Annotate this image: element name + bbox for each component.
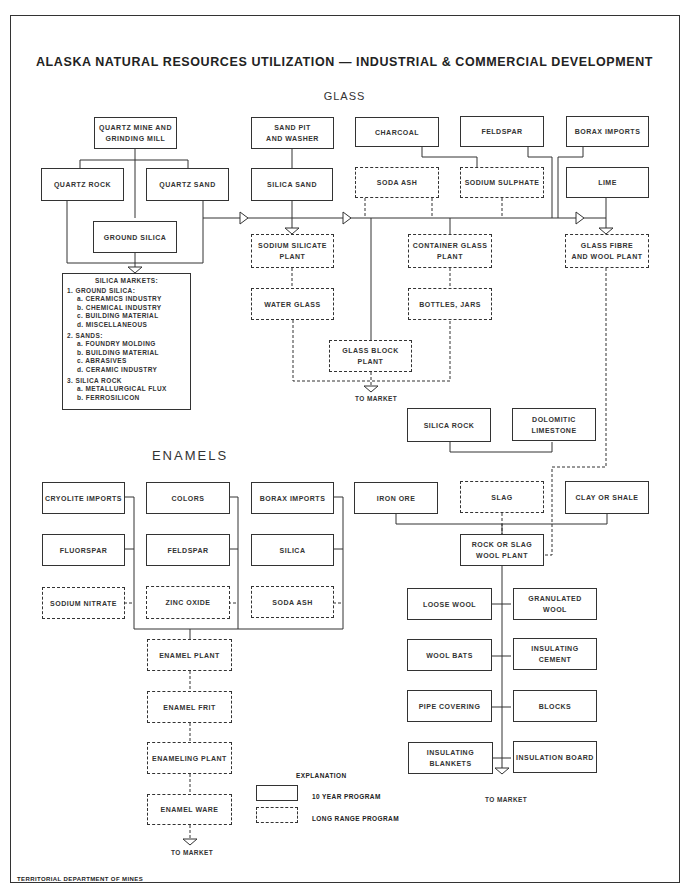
markets-group-1: 1. GROUND SILICA: a. CERAMICS INDUSTRY b… [67,286,186,329]
box-quartz-rock: QUARTZ ROCK [41,168,124,201]
to-market-wool: TO MARKET [485,796,527,803]
box-lime: LIME [566,167,649,198]
box-colors: COLORS [146,482,230,514]
box-soda-ash-enamels: SODA ASH [251,586,334,618]
to-market-enamels: TO MARKET [171,849,213,856]
box-wool-bats: WOOL BATS [407,639,492,671]
box-feldspar: FELDSPAR [460,116,544,147]
box-enamel-plant: ENAMEL PLANT [147,639,232,671]
legend-dashed-label: LONG RANGE PROGRAM [312,815,399,822]
box-soda-ash-glass: SODA ASH [355,167,439,198]
legend-solid-swatch [256,785,298,801]
markets-item: c. BUILDING MATERIAL [67,312,186,321]
markets-group-heading: 3. SILICA ROCK [67,376,186,385]
box-silica-rock: SILICA ROCK [407,408,491,442]
markets-item: a. CERAMICS INDUSTRY [67,295,186,304]
box-water-glass: WATER GLASS [251,288,334,320]
box-quartz-sand: QUARTZ SAND [146,168,229,201]
markets-group-heading: 2. SANDS: [67,331,186,340]
markets-item: d. MISCELLANEOUS [67,321,186,330]
box-silica-sand: SILICA SAND [251,168,333,201]
box-glass-block-plant: GLASS BLOCK PLANT [329,340,412,372]
legend-solid-label: 10 YEAR PROGRAM [312,793,381,800]
box-insulating-blankets: INSULATING BLANKETS [408,742,493,774]
box-borax-imports-enamels: BORAX IMPORTS [251,482,334,514]
markets-group-heading: 1. GROUND SILICA: [67,286,186,295]
box-sodium-sulphate: SODIUM SULPHATE [460,167,544,198]
markets-item: b. BUILDING MATERIAL [67,349,186,358]
silica-markets-box: SILICA MARKETS: 1. GROUND SILICA: a. CER… [62,273,191,410]
markets-item: b. CHEMICAL INDUSTRY [67,304,186,313]
markets-item: b. FERROSILICON [67,394,186,403]
box-iron-ore: IRON ORE [354,482,438,514]
to-market-glass: TO MARKET [355,395,397,402]
footer-credit: TERRITORIAL DEPARTMENT OF MINES [17,876,143,882]
box-glass-fibre-plant: GLASS FIBRE AND WOOL PLANT [565,234,649,268]
box-cryolite-imports: CRYOLITE IMPORTS [42,482,125,514]
box-insulation-board: INSULATION BOARD [513,741,597,773]
box-granulated-wool: GRANULATED WOOL [513,588,597,620]
box-sodium-nitrate: SODIUM NITRATE [42,587,125,619]
markets-group-3: 3. SILICA ROCK a. METALLURGICAL FLUX b. … [67,376,186,402]
box-container-glass-plant: CONTAINER GLASS PLANT [408,234,492,268]
box-sand-pit: SAND PIT AND WASHER [251,117,334,149]
box-quartz-mine: QUARTZ MINE AND GRINDING MILL [94,117,177,149]
box-silica-enamels: SILICA [251,534,334,566]
box-loose-wool: LOOSE WOOL [407,588,492,620]
box-bottles-jars: BOTTLES, JARS [408,288,492,320]
legend-title: EXPLANATION [296,772,347,779]
box-enameling-plant: ENAMELING PLANT [147,742,232,774]
markets-item: a. FOUNDRY MOLDING [67,340,186,349]
box-rock-slag-wool-plant: ROCK OR SLAG WOOL PLANT [460,534,544,566]
markets-item: a. METALLURGICAL FLUX [67,385,186,394]
markets-group-2: 2. SANDS: a. FOUNDRY MOLDING b. BUILDING… [67,331,186,374]
box-ground-silica: GROUND SILICA [93,221,177,253]
box-dolomitic-limestone: DOLOMITIC LIMESTONE [512,408,596,441]
box-feldspar-enamels: FELDSPAR [146,534,230,566]
box-slag: SLAG [460,481,544,513]
markets-item: d. CERAMIC INDUSTRY [67,366,186,375]
box-pipe-covering: PIPE COVERING [407,690,492,722]
box-sodium-silicate-plant: SODIUM SILICATE PLANT [251,234,334,268]
markets-item: c. ABRASIVES [67,357,186,366]
box-zinc-oxide: ZINC OXIDE [146,586,230,619]
box-blocks: BLOCKS [513,690,597,722]
box-borax-imports-glass: BORAX IMPORTS [566,116,649,147]
box-charcoal: CHARCOAL [355,117,439,147]
legend-dashed-swatch [256,807,298,823]
box-insulating-cement: INSULATING CEMENT [513,638,597,670]
box-fluorspar: FLUORSPAR [42,534,125,566]
box-enamel-frit: ENAMEL FRIT [147,691,232,723]
silica-markets-title: SILICA MARKETS: [67,277,186,284]
box-enamel-ware: ENAMEL WARE [147,794,232,825]
box-clay-or-shale: CLAY OR SHALE [565,481,649,514]
